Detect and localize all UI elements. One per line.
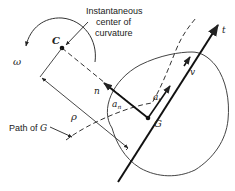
label-rho: ρ: [70, 111, 77, 122]
tangent-line-t: [118, 25, 218, 182]
diagram-svg: Instantaneous center of curvature C ω n …: [0, 0, 235, 191]
center-title-line2: center of: [96, 17, 132, 27]
center-title-line1: Instantaneous: [86, 6, 143, 16]
velocity-arrow: [184, 57, 190, 66]
path-of-g-label: Path of G: [9, 123, 47, 133]
label-c: C: [52, 35, 60, 46]
rho-extension-c: [40, 48, 62, 77]
label-a-n: an: [112, 99, 121, 110]
label-v: v: [190, 67, 195, 77]
rho-dimension-line: [42, 78, 128, 148]
label-omega: ω: [13, 56, 21, 67]
point-g: [146, 116, 151, 121]
center-title-line3: curvature: [95, 28, 133, 38]
label-t: t: [222, 25, 226, 35]
label-g: G: [154, 118, 162, 129]
path-leader-line: [50, 127, 72, 137]
center-leader-line: [66, 22, 88, 45]
label-n: n: [94, 86, 100, 96]
kinematics-diagram: Instantaneous center of curvature C ω n …: [0, 0, 235, 191]
normal-acceleration-arrow: [104, 83, 148, 118]
label-a-t: at: [153, 92, 161, 103]
